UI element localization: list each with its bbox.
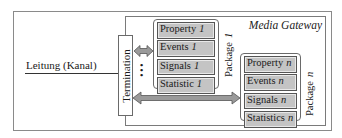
arrows-layer (0, 0, 342, 138)
short-double-arrow-icon (134, 46, 153, 57)
long-double-arrow-icon (133, 92, 240, 104)
